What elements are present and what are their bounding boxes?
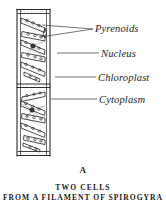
pyrenoid xyxy=(40,140,43,142)
label-chloroplast: Chloroplast xyxy=(98,72,149,83)
pyrenoid xyxy=(29,75,32,77)
chloroplast-band xyxy=(22,53,46,63)
nucleus xyxy=(30,108,35,113)
label-nucleus: Nucleus xyxy=(101,48,136,59)
leader-line-pyrenoids-b xyxy=(41,29,94,37)
chloroplast-cell-1 xyxy=(21,18,47,82)
pyrenoid xyxy=(33,117,36,119)
pyrenoid xyxy=(27,54,30,56)
pyrenoid xyxy=(34,56,37,58)
figure-caption-line-2: FROM A FILAMENT OF SPIROGYRA xyxy=(0,193,166,202)
chloroplast-cell-2 xyxy=(21,92,45,152)
figure-caption-line-1: TWO CELLS xyxy=(0,183,166,192)
spirogyra-figure: Pyrenoids Nucleus Chloroplast Cytoplasm … xyxy=(0,0,166,204)
label-pyrenoids: Pyrenoids xyxy=(95,23,139,34)
pyrenoid xyxy=(34,139,37,141)
figure-letter: A xyxy=(0,165,166,175)
pyrenoid xyxy=(29,146,32,148)
pyrenoid xyxy=(35,78,38,80)
pyrenoid xyxy=(40,58,43,60)
chloroplast-band xyxy=(23,143,40,152)
pyrenoid xyxy=(27,33,30,35)
nucleus xyxy=(31,44,36,49)
pyrenoid xyxy=(34,35,37,37)
pyrenoid xyxy=(35,148,38,150)
label-cytoplasm: Cytoplasm xyxy=(99,94,145,105)
